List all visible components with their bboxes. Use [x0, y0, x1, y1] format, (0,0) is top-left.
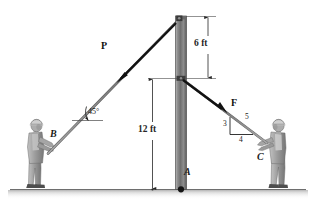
dimension-12ft-label: 12 ft: [138, 125, 156, 135]
figure-canvas: [0, 0, 317, 207]
triangle-rise-label: 3: [223, 120, 227, 128]
point-c-label: C: [257, 152, 264, 162]
point-b-label: B: [50, 129, 57, 139]
statics-figure: P F A B C 45° 6 ft 12 ft 3 4 5: [0, 0, 317, 207]
force-p-label: P: [101, 41, 107, 51]
angle-45-label: 45°: [88, 108, 99, 116]
slope-triangle-345: [230, 117, 253, 135]
pole-top-fitting-icon: [176, 16, 182, 22]
force-p-arrow: [117, 23, 177, 83]
ground-shadow: [8, 190, 308, 199]
force-f-label: F: [231, 98, 237, 108]
triangle-hyp-label: 5: [245, 113, 249, 121]
triangle-run-label: 4: [239, 136, 243, 144]
dimension-6ft-label: 6 ft: [194, 39, 207, 49]
pole: [176, 16, 187, 190]
pin-support-icon: [178, 186, 184, 192]
force-f-arrow: [183, 80, 228, 113]
dimension-12ft: [148, 79, 177, 191]
point-a-label: A: [184, 167, 191, 177]
